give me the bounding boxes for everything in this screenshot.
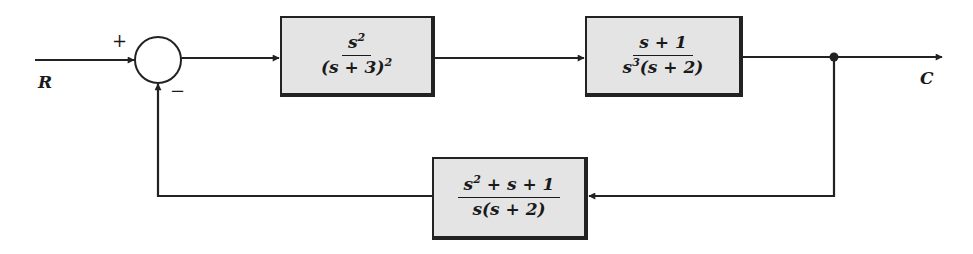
input-label-R: R [38, 72, 52, 92]
feedback-block-H: s2 + s + 1 s(s + 2) [432, 157, 588, 240]
denominator: (s + 3)2 [315, 56, 398, 78]
transfer-function-G1: s2 (s + 3)2 [315, 33, 398, 77]
output-label-C: C [920, 68, 934, 88]
summing-junction [135, 37, 181, 83]
minus-sign: − [170, 80, 185, 101]
numerator: s + 1 [633, 33, 692, 56]
numerator: s2 [342, 33, 371, 56]
numerator: s2 + s + 1 [458, 175, 561, 198]
forward-block-G1: s2 (s + 3)2 [280, 16, 435, 97]
feedback-path-left [158, 84, 432, 196]
denominator: s3(s + 2) [617, 56, 710, 78]
transfer-function-H: s2 + s + 1 s(s + 2) [458, 175, 561, 219]
denominator: s(s + 2) [466, 198, 551, 220]
forward-block-G2: s + 1 s3(s + 2) [585, 16, 743, 97]
transfer-function-G2: s + 1 s3(s + 2) [617, 33, 710, 77]
plus-sign: + [112, 30, 127, 51]
